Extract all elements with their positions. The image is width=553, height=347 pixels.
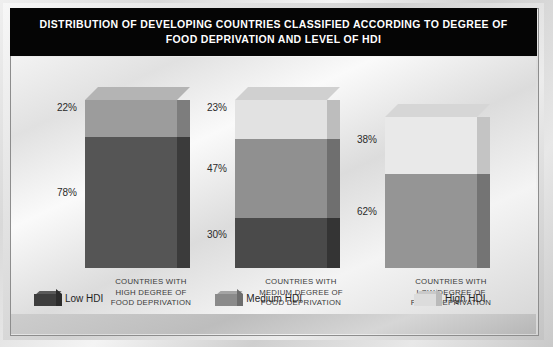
bar-side-face <box>177 137 190 268</box>
segment-value-label: 47% <box>207 163 227 174</box>
stacked-bar: 38% 62% <box>385 117 477 268</box>
chart-title-bar: DISTRIBUTION OF DEVELOPING COUNTRIES CLA… <box>10 8 537 56</box>
bar-side-face <box>477 117 490 174</box>
legend-item-medium-hdi[interactable]: Medium HDI <box>215 291 302 306</box>
bar-segment-high-hdi[interactable]: 38% <box>385 117 477 174</box>
bar-side-face <box>327 218 340 268</box>
figure-bottom-band <box>11 314 536 334</box>
bar-side-face <box>327 100 340 139</box>
chart-figure: DISTRIBUTION OF DEVELOPING COUNTRIES CLA… <box>0 0 553 347</box>
legend-label: Low HDI <box>65 293 103 304</box>
legend-swatch-icon <box>215 291 237 306</box>
bar-segment-high-hdi[interactable]: 23% <box>235 100 327 139</box>
stacked-bar: 23% 47% 30% <box>235 100 327 268</box>
bar-segment-low-hdi[interactable]: 78% <box>85 137 177 268</box>
bar-side-face <box>177 100 190 137</box>
segment-value-label: 30% <box>207 229 227 240</box>
segment-value-label: 62% <box>357 206 377 217</box>
bar-group-high-deprivation: 22% 78% COUNTRIES WITH HIGH DEGREE OF FO… <box>85 100 195 268</box>
segment-value-label: 22% <box>57 102 77 113</box>
chart-title-line-1: DISTRIBUTION OF DEVELOPING COUNTRIES CLA… <box>40 17 508 32</box>
bar-segment-high-hdi[interactable]: 22% <box>85 100 177 137</box>
bar-top-face <box>235 87 327 100</box>
segment-value-label: 23% <box>207 102 227 113</box>
legend-label: Medium HDI <box>246 293 302 304</box>
legend-item-low-hdi[interactable]: Low HDI <box>34 291 103 306</box>
plot-area: 22% 78% COUNTRIES WITH HIGH DEGREE OF FO… <box>11 57 536 315</box>
segment-value-label: 38% <box>357 134 377 145</box>
bar-side-face <box>477 174 490 268</box>
stacked-bar: 22% 78% <box>85 100 177 268</box>
chart-title-line-2: FOOD DEPRIVATION AND LEVEL OF HDI <box>166 32 381 47</box>
chart-legend: Low HDI Medium HDI High HDI <box>11 282 536 314</box>
legend-swatch-icon <box>414 291 436 306</box>
bar-side-face <box>327 139 340 218</box>
bar-group-low-deprivation: 38% 62% COUNTRIES WITH LOW DEGREE OF FOO… <box>385 117 495 268</box>
bar-top-face <box>85 87 177 100</box>
legend-swatch-icon <box>34 291 56 306</box>
bar-group-medium-deprivation: 23% 47% 30% COUNTRIES WITH MEDIUM DEGREE… <box>235 100 345 268</box>
bar-segment-medium-hdi[interactable]: 62% <box>385 174 477 268</box>
legend-item-high-hdi[interactable]: High HDI <box>414 291 486 306</box>
legend-label: High HDI <box>445 293 486 304</box>
bar-segment-medium-hdi[interactable]: 47% <box>235 139 327 218</box>
bar-top-face <box>385 104 477 117</box>
segment-value-label: 78% <box>57 187 77 198</box>
bar-segment-low-hdi[interactable]: 30% <box>235 218 327 268</box>
